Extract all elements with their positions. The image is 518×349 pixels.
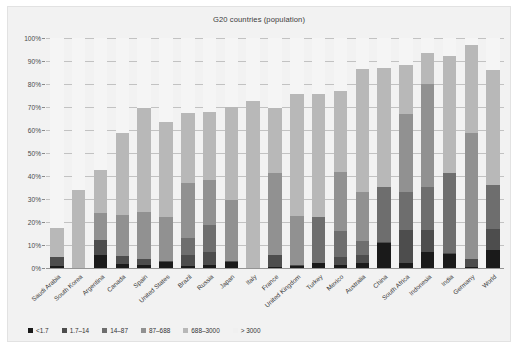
bar-segment[interactable] (399, 38, 413, 64)
bar-segment[interactable] (356, 255, 370, 263)
bar-segment[interactable] (94, 213, 108, 239)
bar-segment[interactable] (486, 70, 500, 185)
stacked-bar[interactable] (159, 38, 173, 268)
bar-segment[interactable] (94, 240, 108, 256)
bar-segment[interactable] (334, 257, 348, 265)
bar-segment[interactable] (377, 38, 391, 68)
bar-slot[interactable] (242, 38, 264, 268)
bar-slot[interactable] (330, 38, 352, 268)
bar-segment[interactable] (399, 65, 413, 114)
bar-segment[interactable] (312, 263, 326, 268)
stacked-bar[interactable] (465, 38, 479, 268)
bar-segment[interactable] (356, 69, 370, 192)
bar-slot[interactable] (221, 38, 243, 268)
bar-segment[interactable] (356, 38, 370, 69)
bar-slot[interactable] (133, 38, 155, 268)
bar-segment[interactable] (181, 183, 195, 238)
stacked-bar[interactable] (377, 38, 391, 268)
bar-segment[interactable] (50, 38, 64, 228)
bar-segment[interactable] (356, 241, 370, 255)
bar-segment[interactable] (377, 243, 391, 268)
bar-segment[interactable] (181, 38, 195, 113)
bar-segment[interactable] (290, 266, 304, 268)
bar-slot[interactable] (308, 38, 330, 268)
bar-segment[interactable] (421, 230, 435, 252)
stacked-bar[interactable] (50, 38, 64, 268)
stacked-bar[interactable] (486, 38, 500, 268)
bar-segment[interactable] (465, 259, 479, 267)
bar-segment[interactable] (159, 217, 173, 261)
bar-segment[interactable] (334, 231, 348, 258)
bar-slot[interactable] (286, 38, 308, 268)
bar-segment[interactable] (246, 38, 260, 101)
bar-segment[interactable] (94, 170, 108, 213)
bar-segment[interactable] (268, 173, 282, 255)
bar-segment[interactable] (443, 254, 457, 268)
bar-segment[interactable] (312, 217, 326, 263)
bar-segment[interactable] (116, 264, 130, 268)
bar-segment[interactable] (203, 225, 217, 252)
bar-segment[interactable] (421, 252, 435, 268)
bar-segment[interactable] (290, 94, 304, 216)
bar-segment[interactable] (356, 192, 370, 241)
bar-slot[interactable] (68, 38, 90, 268)
bar-slot[interactable] (373, 38, 395, 268)
bar-segment[interactable] (356, 263, 370, 268)
bar-segment[interactable] (137, 212, 151, 259)
bar-segment[interactable] (290, 38, 304, 94)
bar-segment[interactable] (72, 190, 86, 268)
stacked-bar[interactable] (137, 38, 151, 268)
bar-segment[interactable] (334, 91, 348, 172)
stacked-bar[interactable] (334, 38, 348, 268)
bar-segment[interactable] (268, 255, 282, 267)
bar-segment[interactable] (443, 56, 457, 173)
bar-segment[interactable] (268, 267, 282, 268)
bar-segment[interactable] (159, 122, 173, 217)
bar-slot[interactable] (460, 38, 482, 268)
bar-segment[interactable] (399, 192, 413, 231)
bar-segment[interactable] (421, 187, 435, 230)
stacked-bar[interactable] (181, 38, 195, 268)
bar-segment[interactable] (225, 38, 239, 107)
bar-segment[interactable] (181, 113, 195, 183)
bar-segment[interactable] (399, 114, 413, 192)
bar-segment[interactable] (465, 267, 479, 268)
bar-segment[interactable] (312, 94, 326, 217)
bar-segment[interactable] (443, 173, 457, 254)
bar-slot[interactable] (46, 38, 68, 268)
bar-segment[interactable] (225, 107, 239, 200)
bar-segment[interactable] (399, 263, 413, 268)
bar-segment[interactable] (116, 133, 130, 215)
bar-segment[interactable] (334, 265, 348, 268)
bar-segment[interactable] (116, 215, 130, 255)
stacked-bar[interactable] (421, 38, 435, 268)
bar-segment[interactable] (465, 45, 479, 134)
bar-segment[interactable] (181, 266, 195, 268)
legend-item[interactable]: 688–3000 (183, 327, 219, 334)
bar-segment[interactable] (486, 185, 500, 229)
bar-segment[interactable] (203, 265, 217, 268)
bar-segment[interactable] (203, 180, 217, 224)
bar-segment[interactable] (334, 38, 348, 91)
stacked-bar[interactable] (399, 38, 413, 268)
bar-slot[interactable] (439, 38, 461, 268)
bar-segment[interactable] (486, 229, 500, 250)
bar-segment[interactable] (421, 84, 435, 186)
stacked-bar[interactable] (246, 38, 260, 268)
bar-slot[interactable] (155, 38, 177, 268)
bar-slot[interactable] (417, 38, 439, 268)
stacked-bar[interactable] (94, 38, 108, 268)
stacked-bar[interactable] (72, 38, 86, 268)
stacked-bar[interactable] (268, 38, 282, 268)
bar-slot[interactable] (482, 38, 504, 268)
legend-item[interactable]: 1.7–14 (62, 327, 90, 334)
bar-segment[interactable] (159, 38, 173, 122)
stacked-bar[interactable] (443, 38, 457, 268)
bar-segment[interactable] (50, 257, 64, 266)
bar-slot[interactable] (351, 38, 373, 268)
bar-segment[interactable] (203, 252, 217, 265)
bar-slot[interactable] (111, 38, 133, 268)
bar-slot[interactable] (199, 38, 221, 268)
bar-segment[interactable] (421, 38, 435, 53)
bar-segment[interactable] (312, 38, 326, 94)
